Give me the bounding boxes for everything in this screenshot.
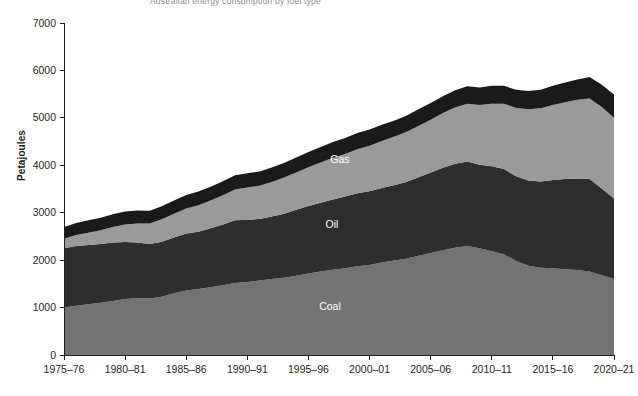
- x-tick-label: 1985–86: [166, 363, 207, 375]
- y-tick-label: 4000: [33, 159, 57, 171]
- y-tick-label: 3000: [33, 206, 57, 218]
- y-tick-label: 2000: [33, 254, 57, 266]
- x-tick-label: 1980–81: [105, 363, 146, 375]
- series-label-coal: Coal: [319, 300, 341, 312]
- series-label-oil: Oil: [326, 218, 339, 230]
- x-tick-label: 2000–01: [349, 363, 390, 375]
- stacked-area-plot: 01000200030004000500060007000 1975–76198…: [0, 0, 638, 396]
- y-tick-label: 5000: [33, 111, 57, 123]
- x-axis: 1975–761980–811985–861990–911995–962000–…: [44, 355, 635, 375]
- area-bands: [64, 77, 614, 355]
- y-tick-label: 7000: [33, 17, 57, 29]
- x-tick-label: 2005–06: [410, 363, 451, 375]
- y-tick-label: 6000: [33, 64, 57, 76]
- series-label-renewables: Renewables: [306, 105, 364, 117]
- x-tick-label: 2010–11: [472, 363, 512, 375]
- x-tick-label: 2020–21: [594, 363, 635, 375]
- x-tick-label: 1995–96: [288, 363, 329, 375]
- x-tick-label: 2015–16: [532, 363, 573, 375]
- series-label-gas: Gas: [330, 153, 349, 165]
- chart-figure: Australian energy consumption by fuel ty…: [0, 0, 638, 396]
- x-tick-label: 1990–91: [227, 363, 268, 375]
- y-tick-label: 0: [50, 349, 56, 361]
- y-axis: 01000200030004000500060007000: [33, 17, 64, 361]
- y-tick-label: 1000: [33, 301, 57, 313]
- x-tick-label: 1975–76: [44, 363, 85, 375]
